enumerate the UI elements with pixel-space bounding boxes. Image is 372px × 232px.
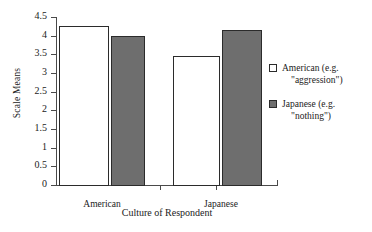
y-tick-9: 0 (51, 185, 56, 186)
x-axis-title: Culture of Respondent (56, 207, 278, 218)
legend-item-american: American (e.g. "aggression") (268, 62, 372, 86)
y-axis-title: Scale Means (12, 43, 22, 143)
y-tick-2: 3.5 (51, 54, 56, 55)
legend-item-japanese: Japanese (e.g. "nothing") (268, 98, 372, 122)
legend-label-american-line1: American (e.g. (282, 63, 339, 73)
y-tick-label-9: 0 (42, 178, 47, 189)
chart-legend: American (e.g. "aggression") Japanese (e… (268, 62, 372, 134)
y-tick-7: 1 (51, 148, 56, 149)
x-axis-endcap (277, 180, 278, 186)
y-tick-label-6: 1.5 (35, 122, 48, 133)
y-tick-6: 1.5 (51, 129, 56, 130)
y-tick-label-0: 4.5 (35, 10, 48, 21)
plot-area: 4.5 4 3.5 3 2.5 2 1.5 1 0.5 0 American J… (56, 17, 278, 185)
y-tick-label-2: 3.5 (35, 47, 48, 58)
y-tick-1: 4 (51, 36, 56, 37)
bar-chart-figure: Scale Means 4.5 4 3.5 3 2.5 2 1.5 1 0.5 … (0, 0, 372, 232)
gray-square-icon (269, 100, 277, 108)
legend-label-japanese-line2: "nothing") (282, 110, 372, 122)
bar-japanese-japanese (222, 30, 262, 186)
y-axis-line (56, 17, 57, 186)
y-tick-label-1: 4 (42, 29, 47, 40)
y-tick-label-7: 1 (42, 141, 47, 152)
white-square-icon (269, 64, 277, 72)
y-tick-label-8: 0.5 (35, 159, 48, 170)
bar-japanese-american (173, 56, 220, 187)
x-tick-group-0 (160, 185, 161, 190)
y-tick-label-5: 2 (42, 103, 47, 114)
y-tick-0: 4.5 (51, 17, 56, 18)
bar-american-american (59, 26, 109, 186)
y-tick-4: 2.5 (51, 92, 56, 93)
y-tick-8: 0.5 (51, 166, 56, 167)
legend-label-american-line2: "aggression") (282, 74, 372, 86)
y-tick-5: 2 (51, 110, 56, 111)
bar-american-japanese (111, 36, 145, 186)
legend-label-japanese-line1: Japanese (e.g. (282, 99, 335, 109)
y-tick-label-4: 2.5 (35, 85, 48, 96)
y-tick-label-3: 3 (42, 66, 47, 77)
y-tick-3: 3 (51, 73, 56, 74)
